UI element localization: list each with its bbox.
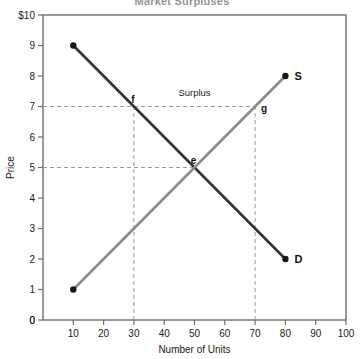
x-tick-label-50: 50 [189, 328, 201, 339]
y-tick-label-3: 3 [29, 223, 35, 234]
y-tick-label-2: 2 [29, 254, 35, 265]
chart-canvas: 0123456789$101020304050607080901000Numbe… [0, 0, 364, 359]
y-axis-title: Price [5, 156, 16, 179]
supply-demand-chart: Market Surpluses 0123456789$101020304050… [0, 0, 364, 359]
point-label-e: e [191, 155, 197, 166]
annotation-surplus: Surplus [178, 87, 210, 98]
x-axis-title: Number of Units [158, 344, 230, 355]
curve-label-S: S [294, 70, 301, 82]
y-tick-label-4: 4 [29, 193, 35, 204]
series-marker-demand-1 [282, 256, 288, 262]
y-tick-label-9: 9 [29, 40, 35, 51]
series-line-supply [73, 76, 285, 290]
y-tick-label-1: 1 [29, 284, 35, 295]
x-tick-label-10: 10 [68, 328, 80, 339]
point-label-g: g [261, 103, 267, 114]
x-origin-label: 0 [29, 315, 35, 326]
x-tick-label-100: 100 [338, 328, 355, 339]
x-tick-label-30: 30 [128, 328, 140, 339]
x-tick-label-60: 60 [219, 328, 231, 339]
y-tick-label-10: $10 [18, 10, 35, 21]
series-line-demand [73, 46, 285, 260]
x-tick-label-70: 70 [250, 328, 262, 339]
y-tick-label-5: 5 [29, 162, 35, 173]
y-tick-label-8: 8 [29, 71, 35, 82]
x-tick-label-20: 20 [98, 328, 110, 339]
x-tick-label-80: 80 [280, 328, 292, 339]
curve-label-D: D [294, 253, 302, 265]
series-marker-supply-0 [70, 286, 76, 292]
y-tick-label-7: 7 [29, 101, 35, 112]
series-marker-demand-0 [70, 42, 76, 48]
x-tick-label-40: 40 [159, 328, 171, 339]
y-tick-label-6: 6 [29, 132, 35, 143]
point-label-f: f [131, 94, 135, 105]
x-tick-label-90: 90 [310, 328, 322, 339]
series-marker-supply-1 [282, 73, 288, 79]
